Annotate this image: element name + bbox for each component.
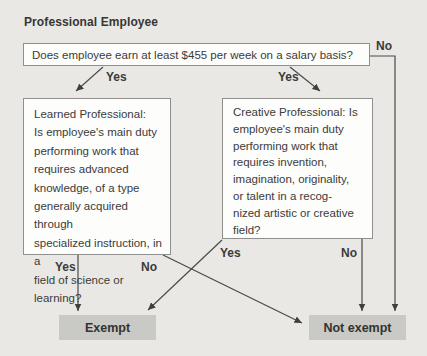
outcome-not-exempt: Not exempt [309,315,406,340]
arrow-question-no-to-not-exempt [370,56,395,311]
diagram-title: Professional Employee [24,15,158,29]
outcome-exempt-label: Exempt [85,321,130,335]
edge-label-yes-left: Yes [106,70,127,84]
edge-label-no-top: No [376,39,392,53]
outcome-not-exempt-label: Not exempt [323,321,391,335]
flowchart-professional-employee: Professional Employee Does employee earn… [0,0,427,356]
salary-question-box: Does employee earn at least $455 per wee… [23,43,370,66]
edge-label-creative-yes: Yes [220,246,241,260]
edge-label-learned-yes: Yes [55,260,76,274]
learned-professional-box: Learned Professional: Is employee's main… [23,98,171,255]
arrow-learned-no-to-not-exempt [163,255,302,323]
edge-label-learned-no: No [141,260,157,274]
edge-label-yes-right: Yes [278,70,299,84]
outcome-exempt: Exempt [59,315,156,340]
arrow-question-yes-to-learned [76,67,103,91]
salary-question-text: Does employee earn at least $455 per wee… [32,49,353,61]
edge-label-creative-no: No [341,246,357,260]
creative-professional-box: Creative Professional: Is employee's mai… [222,98,373,239]
